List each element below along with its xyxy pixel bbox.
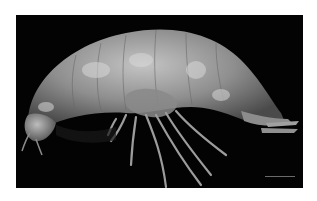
amphipod-illustration [16, 15, 303, 188]
scale-bar [265, 176, 295, 177]
specimen-photo [16, 15, 303, 188]
uropod-2 [261, 128, 298, 133]
legs [108, 111, 226, 187]
